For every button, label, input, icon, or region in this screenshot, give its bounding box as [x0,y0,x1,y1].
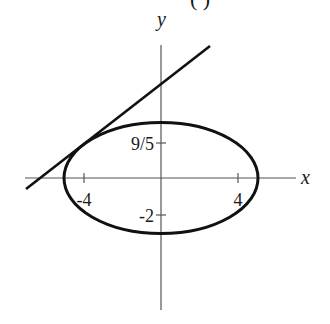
tangent-line [26,46,210,189]
header-fragment: ( ) [190,0,210,11]
x-axis-label: x [300,166,310,188]
y-axis-label: y [155,8,166,31]
y-tick-label-9-5: 9/5 [131,134,154,154]
x-tick-label-pos4: 4 [234,190,243,210]
y-tick-label-neg2: -2 [139,206,154,226]
ellipse-tangent-diagram: ( ) y x -4 4 9/5 -2 [0,0,330,324]
